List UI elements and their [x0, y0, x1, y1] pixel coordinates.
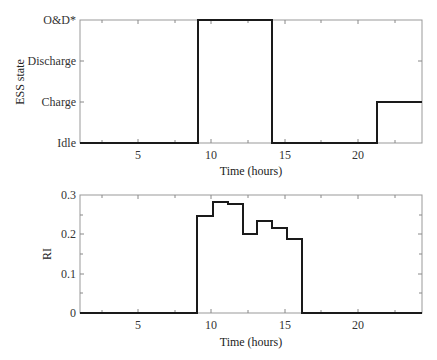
- y-ticks: [80, 215, 422, 293]
- x-tick-label: 15: [279, 318, 291, 332]
- y-axis-label: ESS state: [13, 59, 27, 105]
- x-tick-label: 5: [135, 148, 141, 162]
- x-tick-label: 20: [352, 148, 364, 162]
- x-tick-label: 20: [352, 318, 364, 332]
- x-tick-label: 15: [279, 148, 291, 162]
- y-tick-label: 0.3: [61, 188, 76, 202]
- x-tick-label: 10: [205, 148, 217, 162]
- x-axis-label: Time (hours): [220, 164, 283, 178]
- y-tick-label: 0.1: [61, 267, 76, 281]
- x-tick-label: 5: [135, 318, 141, 332]
- x-tick-label: 10: [205, 318, 217, 332]
- x-axis-label: Time (hours): [220, 335, 283, 349]
- plot-frame: [80, 195, 422, 313]
- y-tick-label-discharge: Discharge: [28, 54, 76, 68]
- ri-panel: 0.3 0.2 0.1 0 5 10 15 20 Time (hours) RI: [40, 188, 422, 349]
- y-tick-label-idle: Idle: [57, 136, 76, 150]
- ess-state-panel: O&D* Discharge Charge Idle 5 10 15 20 Ti…: [13, 13, 422, 178]
- x-ticks: [102, 195, 395, 313]
- ess-state-line: [80, 20, 422, 143]
- y-tick-label-charge: Charge: [42, 95, 76, 109]
- y-tick-label-od: O&D*: [43, 13, 76, 27]
- y-tick-label: 0: [70, 306, 76, 320]
- y-tick-label: 0.2: [61, 227, 76, 241]
- figure: O&D* Discharge Charge Idle 5 10 15 20 Ti…: [0, 0, 437, 360]
- plot-frame: [80, 20, 422, 143]
- ri-line: [80, 202, 422, 313]
- y-axis-label: RI: [40, 248, 54, 260]
- x-ticks: [102, 20, 395, 143]
